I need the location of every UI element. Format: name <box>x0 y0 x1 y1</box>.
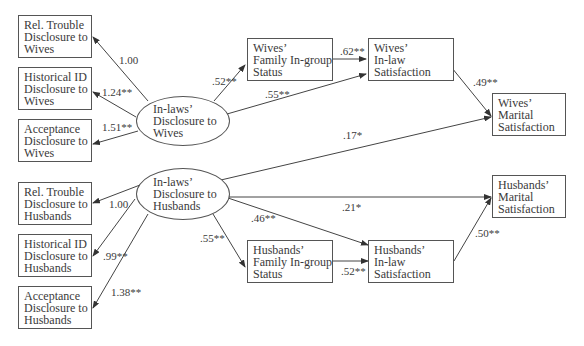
edge-label: 1.00 <box>109 198 128 210</box>
edge-label: .52** <box>212 75 237 87</box>
node-line: Husbands <box>153 200 229 212</box>
node-line: Wives <box>24 95 86 107</box>
figure-caption-truncated <box>2 339 582 346</box>
node-acceptance-wives: Acceptance Disclosure to Wives <box>18 119 92 162</box>
edge-label: .55** <box>265 88 290 100</box>
node-line: Wives <box>24 147 86 159</box>
node-historical-id-husbands: Historical ID Disclosure to Husbands <box>18 234 92 277</box>
latent-inlaws-disclosure-husbands: In-laws’ Disclosure to Husbands <box>136 168 230 220</box>
node-line: Satisfaction <box>498 121 560 133</box>
edge-label: .46** <box>251 212 276 224</box>
node-line: Status <box>253 66 327 78</box>
edge-label: 1.00 <box>119 54 138 66</box>
node-line: Satisfaction <box>374 66 448 78</box>
edge-label: .50** <box>475 227 500 239</box>
edge-label: 1.24** <box>102 86 132 98</box>
node-line: Husbands <box>24 210 86 222</box>
node-historical-id-wives: Historical ID Disclosure to Wives <box>18 67 92 110</box>
edge-label: .49** <box>473 76 498 88</box>
edge-label: 1.51** <box>102 121 132 133</box>
edge-label: .99** <box>103 250 128 262</box>
edge-label: .62** <box>340 45 365 57</box>
edge-label: 1.38** <box>111 286 141 298</box>
node-husbands-marital-satisfaction: Husbands’ Marital Satisfaction <box>492 175 566 218</box>
node-wives-marital-satisfaction: Wives’ Marital Satisfaction <box>492 93 566 136</box>
node-line: Wives <box>153 127 229 139</box>
node-wives-inlaw-satisfaction: Wives’ In-law Satisfaction <box>368 38 454 81</box>
edge-label: .17* <box>343 129 362 141</box>
node-rel-trouble-wives: Rel. Trouble Disclosure to Wives <box>18 15 92 58</box>
node-line: Husbands <box>24 262 86 274</box>
edge-label: .52** <box>341 265 366 277</box>
node-line: Wives <box>24 43 86 55</box>
node-acceptance-husbands: Acceptance Disclosure to Husbands <box>18 286 92 329</box>
node-wives-ingroup-status: Wives’ Family In-group Status <box>247 38 333 81</box>
latent-inlaws-disclosure-wives: In-laws’ Disclosure to Wives <box>136 96 230 146</box>
edge-label: .21* <box>342 201 361 213</box>
node-rel-trouble-husbands: Rel. Trouble Disclosure to Husbands <box>18 182 92 225</box>
edge-inlaws-husbands-to-wives-marital <box>208 117 491 183</box>
node-line: Satisfaction <box>374 268 448 280</box>
node-line: Status <box>253 268 327 280</box>
edge-label: .55** <box>200 232 225 244</box>
node-line: Satisfaction <box>498 203 560 215</box>
node-husbands-inlaw-satisfaction: Husbands’ In-law Satisfaction <box>368 240 454 283</box>
node-husbands-ingroup-status: Husbands’ Family In-group Status <box>247 240 333 283</box>
node-line: Husbands <box>24 314 86 326</box>
